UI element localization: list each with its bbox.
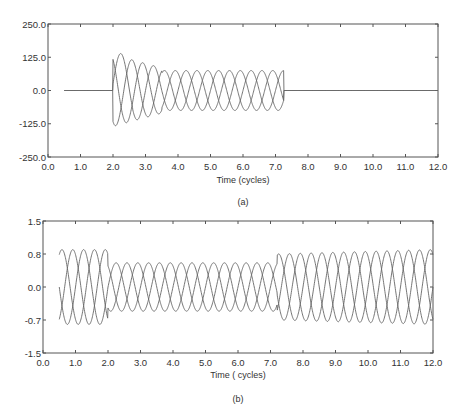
x-tick-label: 2.0 (106, 161, 119, 172)
x-tick-label: 6.0 (236, 161, 249, 172)
x-tick-label: 0.0 (36, 357, 49, 368)
x-tick-label: 4.0 (171, 161, 184, 172)
x-tick-label: 9.0 (334, 161, 347, 172)
x-tick-label: 5.0 (199, 357, 212, 368)
x-tick-label: 0.0 (41, 161, 54, 172)
x-tick-label: 12.0 (424, 357, 443, 368)
x-tick-label: 3.0 (134, 357, 147, 368)
x-tick-label: 5.0 (204, 161, 217, 172)
y-tick-label: 0.0 (33, 85, 46, 96)
x-tick-label: 8.0 (296, 357, 309, 368)
x-tick-label: 12.0 (429, 161, 448, 172)
x-tick-label: 11.0 (397, 161, 415, 172)
x-axis-title: Time (cycles) (216, 175, 269, 185)
waveform-phase-2 (59, 250, 433, 325)
x-tick-label: 4.0 (166, 357, 179, 368)
x-tick-label: 8.0 (301, 161, 314, 172)
y-tick-label: 1.5 (28, 216, 41, 227)
waveform-phase-3 (59, 250, 433, 325)
y-tick-label: 250.0 (22, 19, 46, 30)
plot-b-voltage: 0.01.02.03.04.05.06.07.08.09.010.011.012… (25, 216, 443, 405)
waveform-phase-1 (59, 250, 433, 325)
x-tick-label: 10.0 (364, 161, 383, 172)
figure-caption: (b) (233, 394, 244, 404)
x-tick-label: 1.0 (74, 161, 87, 172)
x-axis-title: Time ( cycles) (210, 370, 266, 380)
x-tick-label: 6.0 (231, 357, 244, 368)
y-tick-label: -0.7 (25, 315, 41, 326)
x-tick-label: 3.0 (139, 161, 152, 172)
plot-a-current: 0.01.02.03.04.05.06.07.08.09.010.011.012… (19, 19, 447, 208)
y-tick-label: 0.0 (28, 282, 41, 293)
x-tick-label: 7.0 (264, 357, 277, 368)
x-tick-label: 9.0 (329, 357, 342, 368)
x-tick-label: 10.0 (359, 357, 378, 368)
y-tick-label: -125.0 (19, 118, 46, 129)
x-tick-label: 2.0 (101, 357, 114, 368)
figure: 0.01.02.03.04.05.06.07.08.09.010.011.012… (0, 0, 459, 410)
waveform-phase-3 (64, 60, 438, 126)
figure-caption: (a) (238, 197, 249, 207)
x-tick-label: 11.0 (392, 357, 410, 368)
y-tick-label: -250.0 (19, 152, 46, 163)
x-tick-label: 7.0 (269, 161, 282, 172)
x-tick-label: 1.0 (69, 357, 82, 368)
y-tick-label: 0.8 (28, 249, 41, 260)
y-tick-label: -1.5 (25, 348, 41, 359)
y-tick-label: 125.0 (22, 52, 46, 63)
